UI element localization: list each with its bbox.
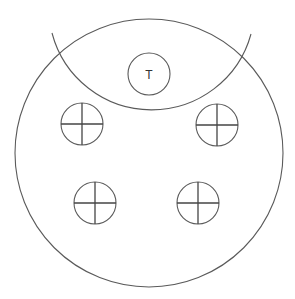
diagram-canvas: T — [0, 0, 295, 299]
outer-circle — [15, 19, 283, 287]
center-marker-label: T — [145, 68, 153, 82]
diagram-svg: T — [0, 0, 295, 299]
center-marker-t: T — [128, 53, 170, 95]
crosshair-marker-top-left — [61, 103, 103, 145]
crosshair-markers — [61, 103, 238, 224]
crosshair-marker-bottom-left — [74, 182, 116, 224]
crosshair-marker-bottom-right — [177, 182, 219, 224]
crosshair-marker-top-right — [196, 104, 238, 146]
